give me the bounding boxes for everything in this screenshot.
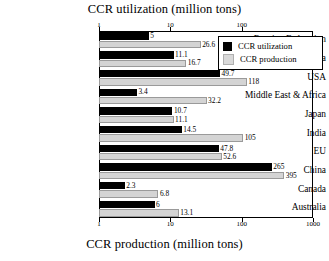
category-label-australia: Australia <box>232 203 329 212</box>
bar-production <box>99 78 247 85</box>
bar-value-label: 395 <box>286 172 297 179</box>
ccr-bar-chart: CCR utilization (million tons) CCR produ… <box>0 0 329 261</box>
bar-utilization <box>99 182 125 189</box>
bar-value-label: 32.2 <box>208 97 221 104</box>
legend-label-utilization: CCR utilization <box>238 42 292 51</box>
bar-production <box>99 116 174 123</box>
bottom-axis-tick-10: 10 <box>167 221 174 228</box>
top-axis-tickmark-10 <box>170 27 171 31</box>
chart-title-top: CCR utilization (million tons) <box>0 2 329 17</box>
category-label-japan: Japan <box>232 110 329 119</box>
bar-production <box>99 41 201 48</box>
bar-value-label: 6.8 <box>160 190 169 197</box>
bar-value-label: 10.7 <box>174 107 187 114</box>
black-square-icon <box>223 42 232 51</box>
bottom-axis-tickmark-1 <box>99 218 100 222</box>
bar-utilization <box>99 89 137 96</box>
legend-label-production: CCR production <box>240 55 297 64</box>
chart-title-bottom: CCR production (million tons) <box>0 237 329 252</box>
bar-value-label: 13.1 <box>180 209 193 216</box>
bar-production <box>99 172 284 179</box>
chart-legend: CCR utilization CCR production <box>218 36 323 70</box>
bar-value-label: 5 <box>150 32 154 39</box>
bottom-axis-tick-1000: 1000 <box>306 221 320 228</box>
bar-value-label: 2.3 <box>126 182 135 189</box>
bar-value-label: 49.7 <box>222 70 235 77</box>
bar-value-label: 16.7 <box>188 59 201 66</box>
bar-production <box>99 209 179 216</box>
gray-square-icon <box>223 54 234 65</box>
bar-production <box>99 190 158 197</box>
bar-value-label: 26.6 <box>202 41 215 48</box>
bar-production <box>99 134 243 141</box>
bar-production <box>99 97 207 104</box>
bar-production <box>99 153 222 160</box>
legend-item-utilization: CCR utilization <box>223 40 318 53</box>
bar-value-label: 105 <box>245 134 256 141</box>
bottom-axis-tickmark-10 <box>170 218 171 222</box>
bar-value-label: 6 <box>156 201 160 208</box>
bar-utilization <box>99 126 182 133</box>
category-label-middle-east-africa: Middle East & Africa <box>232 91 329 100</box>
legend-item-production: CCR production <box>223 53 318 66</box>
bottom-axis-tickmark-1000 <box>313 218 314 222</box>
bar-value-label: 118 <box>248 78 259 85</box>
bar-value-label: 52.6 <box>223 153 236 160</box>
bar-utilization <box>99 163 272 170</box>
bar-utilization <box>99 51 174 58</box>
bar-production <box>99 60 186 67</box>
bottom-axis-tickmark-100 <box>242 218 243 222</box>
bar-utilization <box>99 145 219 152</box>
bar-value-label: 14.5 <box>183 126 196 133</box>
category-label-canada: Canada <box>232 185 329 194</box>
top-axis-tickmark-100 <box>242 27 243 31</box>
bar-utilization <box>99 107 172 114</box>
bar-utilization <box>99 32 149 39</box>
bar-value-label: 265 <box>273 163 284 170</box>
bar-utilization <box>99 201 155 208</box>
category-label-eu: EU <box>232 147 329 156</box>
bar-value-label: 3.4 <box>138 88 147 95</box>
top-axis-tickmark-1 <box>99 27 100 31</box>
bottom-axis-tick-100: 100 <box>236 221 247 228</box>
bottom-axis-tick-1: 1 <box>97 221 101 228</box>
bar-value-label: 11.1 <box>175 116 188 123</box>
bar-value-label: 47.8 <box>220 145 233 152</box>
bar-value-label: 11.1 <box>175 51 188 58</box>
bar-utilization <box>99 70 220 77</box>
